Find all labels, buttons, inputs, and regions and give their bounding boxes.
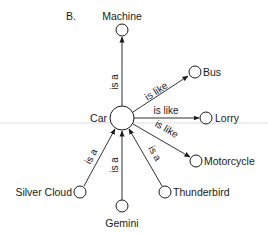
panel-label: B. — [66, 10, 76, 22]
node-label-motorcycle: Motorcycle — [204, 155, 255, 167]
node-motorcycle — [190, 155, 202, 167]
edge-label-car-lorry: is like — [153, 105, 178, 116]
edge-label-car-bus: is like — [143, 79, 170, 102]
node-car — [110, 106, 134, 130]
node-gemini — [116, 200, 128, 212]
node-label-lorry: Lorry — [215, 112, 240, 124]
node-label-car: Car — [90, 112, 107, 124]
edge-label-car-motorcycle: is like — [153, 118, 181, 140]
node-silver-cloud — [74, 186, 86, 198]
node-thunderbird — [159, 186, 171, 198]
node-label-silver-cloud: Silver Cloud — [15, 186, 72, 198]
node-machine — [116, 24, 128, 36]
semantic-network-diagram: B. Car Machine Bus Lorry Motorcycle Silv… — [0, 0, 268, 235]
node-lorry — [200, 112, 212, 124]
edge-label-car-machine: is a — [109, 74, 120, 90]
node-label-gemini: Gemini — [105, 217, 138, 229]
edge-label-gemini-car: is a — [109, 157, 120, 173]
node-label-machine: Machine — [102, 10, 142, 22]
node-label-bus: Bus — [203, 66, 221, 78]
node-label-thunderbird: Thunderbird — [173, 186, 230, 198]
edge-label-thunderbird-car: is a — [146, 144, 164, 163]
node-bus — [189, 66, 201, 78]
